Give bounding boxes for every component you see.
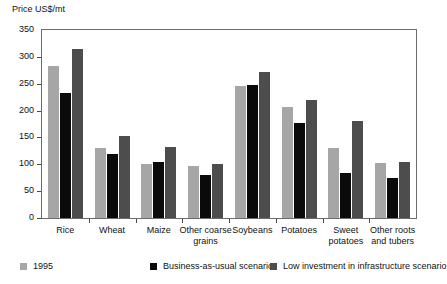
- bar: [141, 164, 152, 218]
- bar: [399, 162, 410, 218]
- bar: [60, 93, 71, 218]
- y-axis-tick-label: 50: [24, 185, 34, 196]
- bar: [387, 178, 398, 218]
- bar-group: [375, 30, 410, 218]
- bar: [352, 121, 363, 218]
- legend-item[interactable]: Business-as-usual scenario: [150, 261, 273, 272]
- bar: [259, 72, 270, 218]
- bar: [165, 147, 176, 218]
- bar-group: [95, 30, 130, 218]
- bar: [328, 148, 339, 218]
- bar-group: [188, 30, 223, 218]
- bar: [107, 154, 118, 218]
- x-axis-label-line: grains: [177, 236, 234, 247]
- bar-group: [328, 30, 363, 218]
- legend-swatch: [150, 263, 157, 270]
- bar: [340, 173, 351, 218]
- y-axis-tick-mark: [37, 164, 41, 165]
- chart-legend: 1995Business-as-usual scenarioLow invest…: [0, 261, 441, 275]
- y-axis-tick-mark: [37, 137, 41, 138]
- x-axis-tick-mark: [89, 219, 90, 223]
- bar: [212, 164, 223, 218]
- bar: [294, 123, 305, 218]
- bar-group: [48, 30, 83, 218]
- x-axis-tick-mark: [229, 219, 230, 223]
- bar: [72, 49, 83, 218]
- y-axis-title: Price US$/mt: [12, 4, 65, 15]
- y-axis-tick-label: 150: [19, 131, 34, 142]
- bar: [282, 107, 293, 218]
- bar-group: [282, 30, 317, 218]
- y-axis-tick-label: 250: [19, 78, 34, 89]
- x-axis-label-line: Other roots: [364, 225, 421, 236]
- bar: [247, 85, 258, 218]
- y-axis-tick-label: 350: [19, 24, 34, 35]
- y-axis-tick-mark: [37, 111, 41, 112]
- legend-swatch: [270, 263, 277, 270]
- bar: [188, 166, 199, 218]
- bar: [95, 148, 106, 218]
- x-axis-tick-mark: [369, 219, 370, 223]
- y-axis-tick-label: 0: [29, 212, 34, 223]
- bar-group: [235, 30, 270, 218]
- y-axis-tick-label: 100: [19, 158, 34, 169]
- x-axis-label-line: and tubers: [364, 236, 421, 247]
- legend-label: 1995: [33, 261, 53, 272]
- y-axis-tick-label: 200: [19, 105, 34, 116]
- bar: [306, 100, 317, 218]
- x-axis-tick-mark: [136, 219, 137, 223]
- x-axis-tick-mark: [182, 219, 183, 223]
- x-axis-tick-mark: [276, 219, 277, 223]
- bar: [119, 136, 130, 218]
- y-axis-tick-mark: [37, 57, 41, 58]
- y-axis-tick-mark: [37, 84, 41, 85]
- x-axis-tick-mark: [323, 219, 324, 223]
- y-axis-tick-mark: [37, 218, 41, 219]
- bar: [48, 66, 59, 218]
- x-axis-label: Other rootsand tubers: [364, 225, 421, 247]
- legend-item[interactable]: 1995: [20, 261, 53, 272]
- bar: [375, 163, 386, 218]
- legend-swatch: [20, 263, 27, 270]
- legend-item[interactable]: Low investment in infrastructure scenari…: [270, 261, 447, 272]
- bar: [153, 162, 164, 218]
- bars-layer: [42, 30, 416, 218]
- y-axis-tick-label: 300: [19, 51, 34, 62]
- bar-group: [141, 30, 176, 218]
- y-axis-tick-mark: [37, 191, 41, 192]
- legend-label: Low investment in infrastructure scenari…: [283, 261, 447, 272]
- bar: [235, 86, 246, 218]
- legend-label: Business-as-usual scenario: [163, 261, 273, 272]
- bar: [200, 175, 211, 219]
